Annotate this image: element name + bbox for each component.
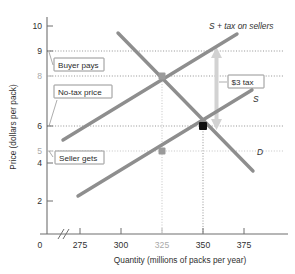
x-tick-label-350: 350 [196,240,211,250]
no-tax-price-label: No-tax price [58,88,102,97]
y-tick-label-5: 5 [37,146,42,156]
tax-amount-label: $3 tax [232,78,254,87]
seller-gets-label: Seller gets [59,154,97,163]
callout-seller-gets: Seller gets [55,151,104,164]
curves [63,33,253,196]
tax-span-arrow [211,47,222,130]
seller-gets-leader [49,151,53,157]
y-axis-tick-labels: 10 9 8 6 5 4 2 [32,21,42,206]
supply-plus-tax-label: S + tax on sellers [209,21,274,31]
no-tax-equilibrium-marker [199,122,207,130]
y-axis-ticks [47,26,53,201]
y-axis-title: Price (dollars per pack) [8,84,18,170]
supply-demand-tax-figure: 10 9 8 6 5 4 2 0 275 300 325 350 375 [0,0,295,274]
y-tick-label-10: 10 [32,21,42,31]
seller-gets-marker [159,148,166,155]
y-tick-label-4: 4 [37,158,42,168]
x-tick-label-300: 300 [114,240,129,250]
y-tick-label-8: 8 [37,71,42,81]
buyer-pays-marker [159,73,166,80]
x-axis-tick-labels: 0 275 300 325 350 375 [38,240,252,250]
x-tick-label-375: 375 [237,240,252,250]
axes [40,17,288,239]
callout-tax-amount: $3 tax [228,75,264,88]
buyer-pays-label: Buyer pays [58,61,99,70]
x-tick-label-275: 275 [73,240,88,250]
callout-no-tax-price: No-tax price [54,85,112,98]
x-axis-title: Quantity (millions of packs per year) [114,255,247,265]
supply-label: S [253,94,259,104]
callout-buyer-pays: Buyer pays [54,58,104,71]
y-tick-label-6: 6 [37,121,42,131]
x-tick-label-0: 0 [38,240,43,250]
demand-label: D [257,147,263,157]
no-tax-price-leader [49,100,57,126]
x-axis-ticks [80,228,244,234]
x-tick-label-325: 325 [155,240,170,250]
buyer-pays-leader [49,52,53,65]
chart-canvas: 10 9 8 6 5 4 2 0 275 300 325 350 375 [0,0,295,274]
y-tick-label-9: 9 [37,46,42,56]
y-tick-label-2: 2 [37,196,42,206]
